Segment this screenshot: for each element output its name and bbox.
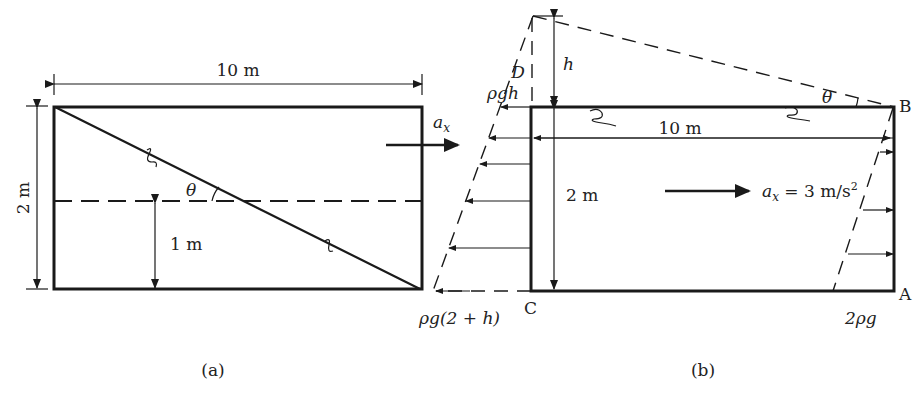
caption-a: (a) bbox=[201, 360, 224, 380]
accel-value-b: = 3 m/s bbox=[779, 181, 851, 201]
accel-label-b: a bbox=[762, 181, 772, 201]
fluid-tank-diagram: 10 m θ 2 m 1 m ax (a) bbox=[0, 0, 921, 398]
figure-a: 10 m θ 2 m 1 m ax (a) bbox=[13, 60, 458, 380]
width-label-b: 10 m bbox=[658, 118, 701, 138]
depth-label-a: 1 m bbox=[170, 234, 202, 254]
water-symbol-icon bbox=[785, 107, 810, 121]
angle-arc-a bbox=[212, 187, 219, 201]
height-label: 2 m bbox=[13, 182, 33, 214]
point-c-label: C bbox=[524, 298, 537, 318]
angle-label-b: θ bbox=[822, 87, 832, 107]
depth-dimension-a: 1 m bbox=[155, 203, 202, 288]
point-a-label: A bbox=[898, 284, 912, 304]
point-b-label: B bbox=[899, 96, 912, 116]
pressure-bottom-right-label: 2ρg bbox=[844, 308, 877, 328]
pressure-bottom-left-label: ρg(2 + h) bbox=[418, 308, 500, 328]
svg-text:ax = 3 m/s2: ax = 3 m/s2 bbox=[762, 180, 858, 204]
accel-label-a: a bbox=[433, 112, 443, 132]
free-surface-extension bbox=[533, 16, 894, 107]
h-label: h bbox=[563, 54, 574, 74]
free-surface-a bbox=[55, 107, 420, 289]
svg-text:ax: ax bbox=[433, 112, 450, 135]
accel-subscript-a: x bbox=[443, 121, 450, 135]
left-pressure-envelope bbox=[433, 16, 533, 291]
caption-b: (b) bbox=[691, 360, 715, 380]
left-pressure-arrows bbox=[436, 107, 531, 291]
depth-label-b: 2 m bbox=[566, 185, 598, 205]
accel-exponent-b: 2 bbox=[851, 180, 858, 193]
acceleration-arrow-b: ax = 3 m/s2 bbox=[665, 180, 858, 204]
figure-b: h D θ B 10 m 2 m ρgh ρg(2 + h) C bbox=[418, 16, 912, 380]
water-symbol-icon bbox=[590, 109, 616, 126]
width-dimension-a: 10 m bbox=[54, 60, 422, 95]
height-dimension-a: 2 m bbox=[13, 106, 48, 289]
width-label: 10 m bbox=[216, 60, 259, 80]
right-pressure-arrows bbox=[848, 152, 893, 254]
pressure-top-left-label: ρgh bbox=[486, 83, 519, 103]
angle-label-a: θ bbox=[186, 180, 196, 200]
